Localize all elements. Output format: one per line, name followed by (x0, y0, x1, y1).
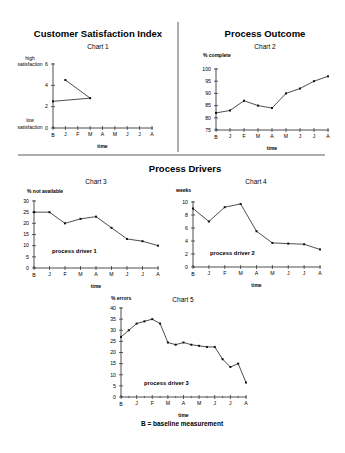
y-tick-label: 15 (110, 360, 116, 366)
y-bottom-label: satisfaction (17, 124, 42, 130)
chart-3: 051015202530BJFMAMJJAtimeChart 3% not av… (23, 178, 160, 289)
data-point (111, 227, 113, 229)
x-tick-label: A (182, 400, 186, 406)
data-point (319, 248, 321, 250)
data-point (95, 216, 97, 218)
x-tick-label: B (32, 272, 36, 278)
data-point (299, 88, 301, 90)
data-point (245, 382, 247, 384)
y-tick-label: 0 (45, 125, 48, 131)
data-point (52, 100, 54, 102)
x-tick-label: F (151, 400, 154, 406)
data-point (271, 242, 273, 244)
x-tick-label: M (238, 270, 242, 276)
y-tick-label: 35 (110, 316, 116, 322)
y-tick-label: 6 (45, 61, 48, 67)
x-tick-label: J (126, 131, 129, 137)
x-tick-label: B (119, 401, 123, 407)
data-point (136, 323, 138, 325)
x-tick-label: M (270, 270, 274, 276)
chart2-title: Process Outcome (225, 28, 306, 39)
data-point (80, 218, 82, 220)
data-point (256, 230, 258, 232)
chart-2: 7580859095100BJFMAMJJAtimeChart 2% compl… (202, 43, 330, 151)
data-point (89, 97, 91, 99)
data-point (175, 344, 177, 346)
y-tick-label: 100 (202, 66, 211, 72)
y-tick-label: 90 (205, 90, 211, 96)
data-point (49, 211, 51, 213)
y-tick-label: 0 (185, 264, 188, 270)
x-tick-label: A (244, 400, 248, 406)
data-point (229, 109, 231, 111)
data-point (243, 100, 245, 102)
data-point (287, 243, 289, 245)
x-tick-label: M (197, 400, 201, 406)
y-axis-label: % complete (203, 52, 231, 58)
x-tick-label: J (138, 131, 141, 137)
data-point (151, 318, 153, 320)
x-tick-label: J (141, 271, 144, 277)
y-tick-label: 25 (110, 338, 116, 344)
x-tick-label: B (214, 134, 218, 140)
x-tick-label: J (208, 270, 211, 276)
y-tick-label: 8 (185, 212, 188, 218)
x-tick-label: A (318, 270, 322, 276)
data-point (183, 341, 185, 343)
y-tick-label: 40 (110, 305, 116, 311)
y-tick-label: 6 (185, 225, 188, 231)
data-point (64, 222, 66, 224)
data-point (285, 92, 287, 94)
x-tick-label: A (150, 131, 154, 137)
y-tick-label: 2 (45, 103, 48, 109)
y-bottom-label: low (26, 117, 34, 123)
data-point (64, 79, 66, 81)
process-drivers-title: Process Drivers (149, 163, 221, 174)
data-line (193, 204, 320, 250)
data-point (257, 105, 259, 107)
x-axis-label: time (267, 145, 278, 151)
y-tick-label: 4 (45, 82, 48, 88)
chart-5: 0510152025303540BJFMAMJJAtimeChart 5% er… (110, 295, 248, 418)
x-tick-label: F (242, 133, 245, 139)
chart-subtitle: Chart 3 (85, 178, 107, 185)
data-point (190, 344, 192, 346)
data-point (33, 211, 35, 213)
chart-subtitle: Chart 1 (87, 43, 109, 50)
data-point (198, 345, 200, 347)
x-tick-label: A (94, 271, 98, 277)
chart-subtitle: Chart 4 (245, 178, 267, 185)
y-tick-label: 10 (23, 242, 29, 248)
data-point (126, 238, 128, 240)
data-point (120, 336, 122, 338)
chart-subtitle: Chart 2 (254, 43, 276, 50)
x-tick-label: J (213, 400, 216, 406)
y-tick-label: 4 (185, 238, 188, 244)
data-point (303, 243, 305, 245)
x-tick-label: A (270, 133, 274, 139)
data-line (53, 80, 90, 101)
data-point (229, 366, 231, 368)
data-point (167, 341, 169, 343)
x-tick-label: F (63, 271, 66, 277)
y-top-label: satisfaction (17, 61, 42, 67)
x-tick-label: J (303, 270, 306, 276)
x-tick-label: J (313, 133, 316, 139)
x-tick-label: A (255, 270, 259, 276)
y-axis-label: % not available (27, 188, 63, 194)
x-tick-label: F (223, 270, 226, 276)
data-point (222, 358, 224, 360)
x-tick-label: J (135, 400, 138, 406)
x-axis-label: time (178, 412, 189, 418)
y-tick-label: 75 (205, 127, 211, 133)
x-tick-label: B (191, 271, 195, 277)
x-tick-label: J (229, 400, 232, 406)
y-tick-label: 15 (23, 231, 29, 237)
data-point (157, 245, 159, 247)
data-point (215, 112, 217, 114)
y-tick-label: 20 (23, 220, 29, 226)
data-point (313, 80, 315, 82)
x-tick-label: J (299, 133, 302, 139)
y-tick-label: 0 (26, 265, 29, 271)
y-tick-label: 95 (205, 78, 211, 84)
